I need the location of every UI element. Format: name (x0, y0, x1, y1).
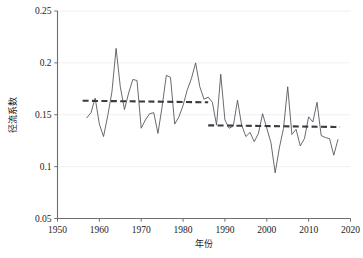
y-tick-label-0.25: 0.25 (35, 6, 52, 16)
y-tick-label-0.15: 0.15 (35, 110, 52, 120)
x-tick-label-1990: 1990 (215, 225, 234, 235)
data-series (87, 48, 338, 173)
x-tick-label-1970: 1970 (132, 225, 151, 235)
y-tick-label-0.1: 0.1 (40, 162, 52, 172)
x-tick-label-1960: 1960 (90, 225, 109, 235)
axes (54, 11, 350, 222)
x-tick-label-1980: 1980 (174, 225, 193, 235)
x-tick-label-1950: 1950 (48, 225, 67, 235)
x-tick-label-2010: 2010 (299, 225, 318, 235)
series-line-runoff-coefficient (87, 48, 338, 173)
runoff-coefficient-chart: 0.050.10.150.20.251950196019701980199020… (0, 0, 363, 258)
trend-mean-1957-1986 (83, 101, 209, 103)
y-axis-title: 径流系数 (7, 97, 18, 133)
gridlines (58, 11, 351, 219)
chart-canvas: 0.050.10.150.20.251950196019701980199020… (0, 0, 363, 258)
y-tick-label-0.2: 0.2 (40, 58, 52, 68)
x-axis-title: 年份 (195, 238, 213, 249)
y-tick-label-0.05: 0.05 (35, 214, 52, 224)
trend-lines (83, 101, 340, 127)
x-tick-label-2000: 2000 (257, 225, 276, 235)
x-tick-label-2020: 2020 (341, 225, 360, 235)
